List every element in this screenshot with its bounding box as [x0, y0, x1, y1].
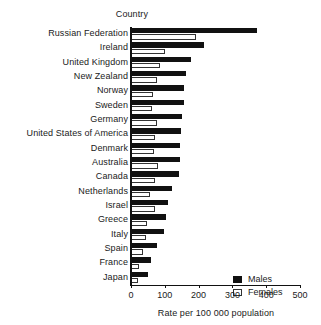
- category-label: Canada: [96, 171, 128, 182]
- category-label: France: [99, 257, 128, 268]
- bar-females: [131, 135, 155, 140]
- bar-males: [131, 171, 179, 176]
- bar-females: [131, 206, 155, 211]
- bar-row: Greece: [0, 213, 321, 227]
- bar-males: [131, 157, 180, 162]
- bar-males: [131, 28, 257, 33]
- bar-males: [131, 229, 164, 234]
- y-axis-line: [130, 27, 131, 285]
- bar-females: [131, 77, 157, 82]
- category-label: Russian Federation: [48, 28, 128, 39]
- bar-females: [131, 49, 165, 54]
- category-label: Spain: [104, 243, 128, 254]
- bar-males: [131, 100, 184, 105]
- x-axis-tick-label: 300: [225, 290, 240, 301]
- bar-row: Denmark: [0, 142, 321, 156]
- x-axis-tick-label: 100: [157, 290, 172, 301]
- x-axis-tick-label: 500: [292, 290, 307, 301]
- bar-males: [131, 85, 184, 90]
- category-label: Greece: [98, 214, 128, 225]
- bar-males: [131, 71, 186, 76]
- category-label: Italy: [111, 229, 128, 240]
- category-label: Sweden: [95, 100, 128, 111]
- category-label: Australia: [92, 157, 128, 168]
- x-axis-title: Rate per 100 000 population: [131, 308, 301, 319]
- bar-row: Ireland: [0, 41, 321, 55]
- filled-black-square-icon: [233, 276, 242, 283]
- bar-males: [131, 200, 168, 205]
- x-axis-tick-label: 200: [191, 290, 206, 301]
- bar-row: United States of America: [0, 127, 321, 141]
- x-axis-tick: [131, 285, 132, 288]
- category-label: Israel: [105, 200, 128, 211]
- bar-row: Norway: [0, 84, 321, 98]
- bar-females: [131, 178, 155, 183]
- bar-row: Canada: [0, 170, 321, 184]
- bar-row: New Zealand: [0, 70, 321, 84]
- category-label: New Zealand: [74, 71, 128, 82]
- bar-females: [131, 192, 150, 197]
- bar-row: Italy: [0, 228, 321, 242]
- bar-females: [131, 278, 138, 283]
- bar-females: [131, 34, 196, 39]
- category-label: United States of America: [27, 128, 128, 139]
- bar-males: [131, 143, 180, 148]
- bar-row: United Kingdom: [0, 56, 321, 70]
- x-axis-tick: [199, 285, 200, 288]
- bar-females: [131, 120, 157, 125]
- bar-males: [131, 57, 191, 62]
- bar-females: [131, 63, 160, 68]
- bar-row: Netherlands: [0, 185, 321, 199]
- x-axis-tick-label: 400: [259, 290, 274, 301]
- x-axis-tick: [266, 285, 267, 288]
- bar-females: [131, 163, 158, 168]
- bar-males: [131, 42, 204, 47]
- bar-females: [131, 249, 143, 254]
- category-axis-title: Country: [0, 9, 148, 20]
- bar-females: [131, 221, 147, 226]
- category-label: Netherlands: [78, 186, 128, 197]
- category-label: United Kingdom: [63, 57, 128, 68]
- category-label: Germany: [90, 114, 128, 125]
- bar-row: Germany: [0, 113, 321, 127]
- bar-row: Sweden: [0, 99, 321, 113]
- bar-row: Australia: [0, 156, 321, 170]
- bar-females: [131, 106, 152, 111]
- x-axis-tick: [232, 285, 233, 288]
- bar-row: Israel: [0, 199, 321, 213]
- bar-females: [131, 264, 139, 269]
- legend-item: Males: [233, 273, 283, 286]
- bar-males: [131, 186, 172, 191]
- bar-chart: Country Russian FederationIrelandUnited …: [0, 0, 321, 325]
- plot-area: Russian FederationIrelandUnited KingdomN…: [0, 27, 321, 289]
- bar-males: [131, 243, 157, 248]
- bar-row: Russian Federation: [0, 27, 321, 41]
- bar-females: [131, 149, 154, 154]
- category-label: Ireland: [100, 42, 128, 53]
- bar-males: [131, 214, 166, 219]
- bar-females: [131, 235, 146, 240]
- bar-rows: Russian FederationIrelandUnited KingdomN…: [0, 27, 321, 285]
- bar-row: Spain: [0, 242, 321, 256]
- x-axis-tick-label: 0: [128, 290, 133, 301]
- category-label: Japan: [103, 272, 128, 283]
- bar-males: [131, 128, 181, 133]
- bar-males: [131, 257, 151, 262]
- bar-males: [131, 114, 182, 119]
- bar-row: France: [0, 256, 321, 270]
- x-axis-tick: [300, 285, 301, 288]
- x-axis-tick: [165, 285, 166, 288]
- bar-females: [131, 92, 153, 97]
- category-label: Denmark: [91, 143, 128, 154]
- bar-males: [131, 272, 148, 277]
- legend-label: Males: [248, 274, 272, 285]
- category-label: Norway: [97, 85, 128, 96]
